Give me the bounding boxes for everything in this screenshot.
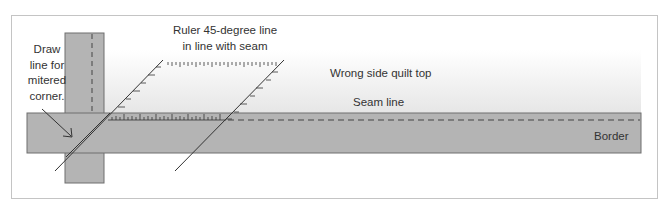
ruler-label-line-2: in line with seam <box>160 39 290 55</box>
draw-line-label: Draw line for mitered corner. <box>20 42 74 104</box>
seam-line-label: Seam line <box>353 95 404 111</box>
draw-line-label-line-3: mitered <box>20 73 74 89</box>
mitered-corner-diagram <box>0 0 670 208</box>
border-label: Border <box>594 129 629 145</box>
ruler-label: Ruler 45-degree line in line with seam <box>160 23 290 54</box>
draw-line-label-line-1: Draw <box>20 42 74 58</box>
ruler-label-line-1: Ruler 45-degree line <box>160 23 290 39</box>
horizontal-border-band <box>27 113 641 153</box>
draw-line-label-line-2: line for <box>20 58 74 74</box>
wrong-side-label: Wrong side quilt top <box>330 66 431 82</box>
draw-line-label-line-4: corner. <box>20 89 74 105</box>
